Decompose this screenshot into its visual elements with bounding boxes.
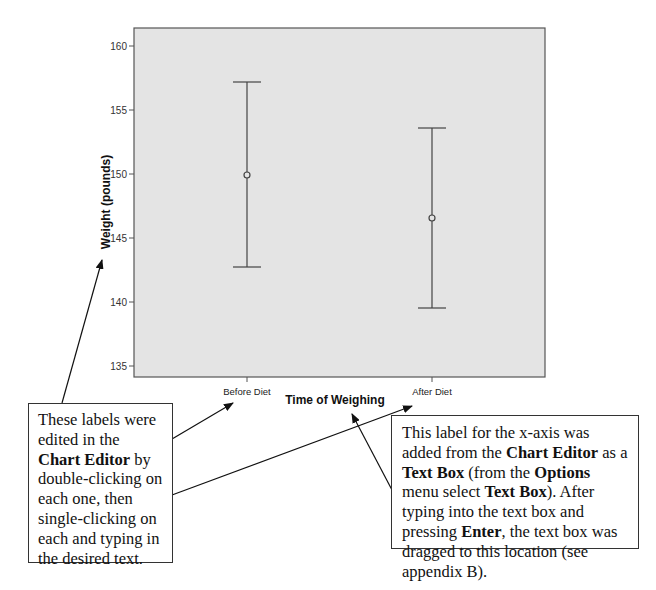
callout-bold-text: Chart Editor: [38, 450, 130, 469]
annotation-callout-labels: These labels were edited in the Chart Ed…: [28, 403, 173, 563]
y-tick-label: 135: [110, 361, 127, 372]
callout-bold-text: Options: [534, 463, 590, 482]
callout-text: as a: [598, 443, 627, 462]
callout-bold-text: Enter: [461, 522, 501, 541]
callout-bold-text: Text Box: [484, 482, 546, 501]
y-tick-label: 160: [110, 41, 127, 52]
arrow-to-y-title: [62, 260, 102, 403]
y-axis: 160 155 150 145 140 135: [110, 41, 134, 372]
annotation-callout-x-axis: This label for the x-axis was added from…: [391, 415, 639, 549]
callout-bold-text: Text Box: [402, 463, 464, 482]
callout-bold-text: Chart Editor: [506, 443, 598, 462]
plot-area: [134, 28, 545, 377]
mean-marker: [244, 172, 250, 178]
callout-text: These labels were edited in the: [38, 410, 156, 449]
callout-text: menu select: [402, 482, 484, 501]
x-axis-title: Time of Weighing: [285, 393, 385, 407]
y-axis-title: Weight (pounds): [99, 155, 113, 249]
y-tick-label: 140: [110, 297, 127, 308]
y-tick-label: 155: [110, 105, 127, 116]
callout-text: (from the: [464, 463, 534, 482]
x-category-label: Before Diet: [223, 386, 271, 397]
arrow-to-after-diet: [172, 406, 412, 495]
mean-marker: [429, 215, 435, 221]
x-category-label: After Diet: [412, 386, 452, 397]
arrow-to-before-diet: [172, 403, 233, 439]
arrow-to-x-title: [352, 414, 392, 490]
